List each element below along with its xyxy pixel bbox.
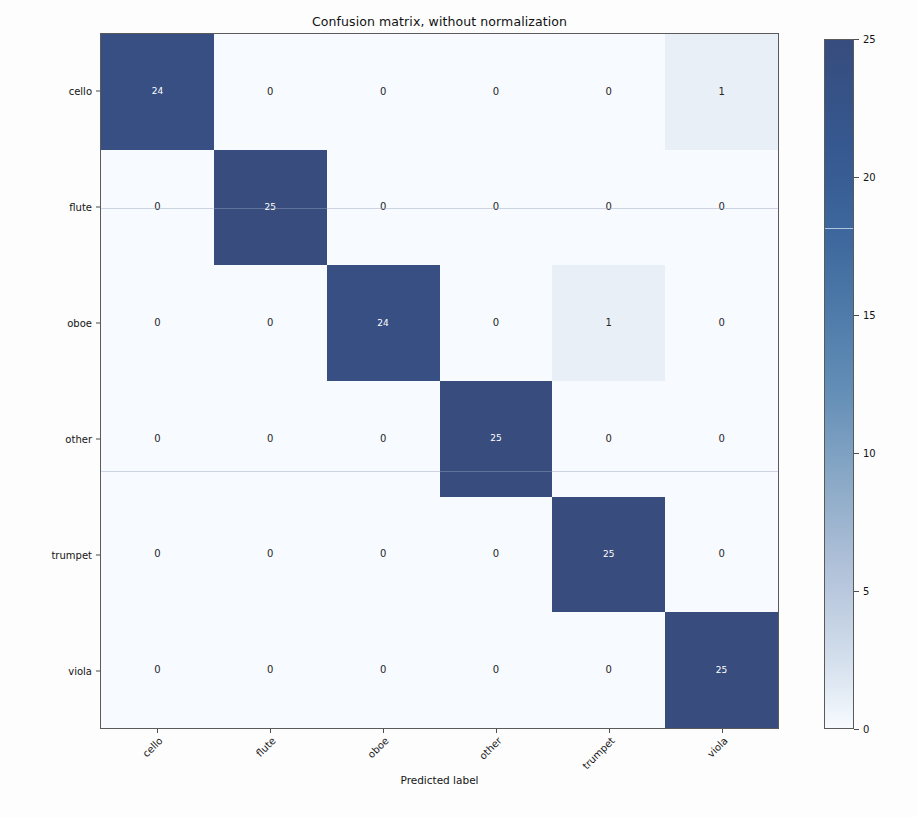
colorbar-tick-label-25: 25 (863, 34, 876, 45)
matrix-cell-value: 1 (606, 318, 612, 328)
matrix-cell: 0 (665, 497, 778, 613)
x-tick-mark (383, 729, 384, 733)
y-tick-mark (96, 671, 100, 672)
matrix-cell-value: 0 (606, 202, 612, 212)
matrix-cell: 0 (665, 381, 778, 497)
y-tick-label-oboe: oboe (22, 318, 92, 329)
x-tick-mark (270, 729, 271, 733)
matrix-cell: 0 (665, 150, 778, 266)
y-tick-label-viola: viola (22, 666, 92, 677)
matrix-cell: 25 (214, 150, 327, 266)
matrix-cell: 0 (214, 497, 327, 613)
colorbar-tick-mark (854, 591, 859, 592)
matrix-cell-value: 0 (380, 202, 386, 212)
matrix-cell: 0 (327, 612, 440, 728)
matrix-cell-value: 0 (267, 549, 273, 559)
matrix-cell-value: 0 (154, 665, 160, 675)
colorbar-legend: 2520151050 (824, 39, 854, 729)
matrix-cell: 0 (327, 497, 440, 613)
y-tick-label-other: other (22, 434, 92, 445)
matrix-cell: 0 (214, 612, 327, 728)
matrix-cell: 0 (552, 150, 665, 266)
colorbar-tick-label-10: 10 (863, 448, 876, 459)
matrix-cell: 0 (101, 612, 214, 728)
matrix-cell: 0 (665, 265, 778, 381)
colorbar-tick-mark (854, 729, 859, 730)
heatmap-grid: 2400001025000000240100002500000025000000… (101, 34, 778, 728)
matrix-cell-value: 0 (493, 202, 499, 212)
matrix-cell: 0 (552, 381, 665, 497)
figure-canvas: Confusion matrix, without normalization … (0, 0, 917, 817)
matrix-cell-value: 0 (380, 549, 386, 559)
matrix-cell-value: 0 (154, 549, 160, 559)
matrix-cell: 0 (440, 150, 553, 266)
matrix-cell-value: 0 (606, 87, 612, 97)
matrix-cell: 25 (552, 497, 665, 613)
matrix-cell-value: 0 (154, 202, 160, 212)
matrix-cell: 25 (440, 381, 553, 497)
matrix-cell-value: 25 (490, 434, 501, 443)
matrix-cell: 25 (665, 612, 778, 728)
matrix-cell-value: 24 (152, 87, 163, 96)
matrix-cell-value: 0 (267, 318, 273, 328)
matrix-cell-value: 0 (718, 434, 724, 444)
colorbar-tick-mark (854, 453, 859, 454)
matrix-cell: 1 (665, 34, 778, 150)
matrix-cell: 1 (552, 265, 665, 381)
matrix-cell-value: 1 (718, 87, 724, 97)
matrix-cell: 0 (327, 381, 440, 497)
matrix-cell-value: 25 (716, 666, 727, 675)
matrix-cell: 0 (440, 34, 553, 150)
matrix-cell-value: 0 (380, 434, 386, 444)
matrix-cell: 0 (101, 497, 214, 613)
matrix-cell: 0 (101, 150, 214, 266)
y-tick-label-trumpet: trumpet (22, 550, 92, 561)
matrix-cell: 0 (440, 497, 553, 613)
matrix-cell-value: 25 (265, 203, 276, 212)
colorbar-tick-label-15: 15 (863, 310, 876, 321)
y-tick-label-flute: flute (22, 202, 92, 213)
matrix-cell-value: 0 (493, 318, 499, 328)
matrix-cell-value: 25 (603, 550, 614, 559)
matrix-cell: 0 (440, 612, 553, 728)
colorbar-tick-label-5: 5 (863, 586, 869, 597)
matrix-cell-value: 0 (154, 318, 160, 328)
colorbar-tick-mark (854, 39, 859, 40)
y-tick-label-cello: cello (22, 86, 92, 97)
matrix-cell-value: 0 (267, 665, 273, 675)
colorbar-tick-label-20: 20 (863, 172, 876, 183)
chart-title: Confusion matrix, without normalization (100, 14, 779, 29)
matrix-cell-value: 0 (267, 87, 273, 97)
y-tick-mark (96, 91, 100, 92)
matrix-cell-value: 0 (606, 665, 612, 675)
x-tick-mark (609, 729, 610, 733)
matrix-cell-value: 0 (493, 87, 499, 97)
matrix-cell: 0 (101, 265, 214, 381)
matrix-cell: 0 (101, 381, 214, 497)
matrix-cell: 0 (214, 381, 327, 497)
colorbar-tick-label-0: 0 (863, 724, 869, 735)
matrix-cell: 0 (440, 265, 553, 381)
confusion-matrix-axes: 2400001025000000240100002500000025000000… (100, 33, 779, 729)
x-tick-mark (157, 729, 158, 733)
matrix-cell: 0 (552, 34, 665, 150)
y-tick-mark (96, 555, 100, 556)
colorbar-tick-mark (854, 177, 859, 178)
matrix-cell-value: 0 (718, 549, 724, 559)
matrix-cell-value: 0 (380, 87, 386, 97)
x-tick-mark (496, 729, 497, 733)
matrix-cell: 0 (327, 150, 440, 266)
y-tick-mark (96, 323, 100, 324)
matrix-cell-value: 0 (267, 434, 273, 444)
matrix-cell: 0 (327, 34, 440, 150)
matrix-cell: 0 (214, 34, 327, 150)
colorbar-gradient (824, 39, 854, 729)
y-tick-mark (96, 439, 100, 440)
matrix-cell-value: 0 (718, 202, 724, 212)
matrix-cell: 0 (214, 265, 327, 381)
matrix-cell-value: 0 (380, 665, 386, 675)
matrix-cell: 24 (101, 34, 214, 150)
colorbar-tick-mark (854, 315, 859, 316)
colorbar-scanline-artifact (825, 228, 853, 229)
matrix-cell: 24 (327, 265, 440, 381)
